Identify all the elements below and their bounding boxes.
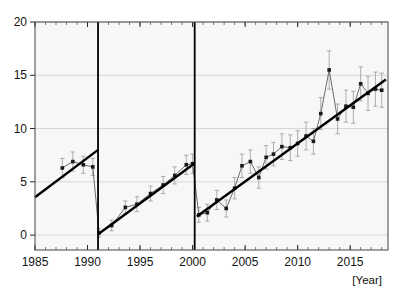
ytick-label-20: 20: [14, 15, 28, 29]
ytick-label-15: 15: [14, 68, 28, 82]
data-point: [280, 145, 284, 149]
chart-container: 198519901995200020052010201505101520[Yea…: [0, 0, 406, 300]
data-point: [82, 163, 86, 167]
data-point: [71, 160, 75, 164]
data-point: [257, 176, 261, 180]
data-point: [249, 160, 253, 164]
xtick-label-2000: 2000: [179, 255, 206, 269]
data-point: [205, 211, 209, 215]
data-point: [240, 164, 244, 168]
xtick-label-2015: 2015: [337, 255, 364, 269]
data-point: [124, 206, 128, 210]
data-point: [264, 156, 268, 160]
xtick-label-1985: 1985: [22, 255, 49, 269]
data-point: [380, 88, 384, 92]
line-chart: 198519901995200020052010201505101520[Yea…: [0, 0, 406, 300]
xtick-label-2010: 2010: [284, 255, 311, 269]
data-point: [61, 166, 65, 170]
xtick-label-1990: 1990: [74, 255, 101, 269]
ytick-label-10: 10: [14, 122, 28, 136]
data-point: [312, 140, 316, 144]
xtick-label-1995: 1995: [127, 255, 154, 269]
ytick-label-5: 5: [20, 175, 27, 189]
xtick-label-2005: 2005: [232, 255, 259, 269]
data-point: [336, 117, 340, 121]
data-point: [359, 82, 363, 86]
plot-background: [35, 22, 388, 250]
data-point: [184, 163, 188, 167]
ytick-label-0: 0: [20, 228, 27, 242]
data-point: [352, 105, 356, 109]
data-point: [224, 207, 228, 211]
data-point: [319, 112, 323, 116]
data-point: [327, 68, 331, 72]
data-point: [91, 165, 95, 169]
data-point: [272, 152, 276, 156]
xaxis-caption: [Year]: [352, 274, 382, 286]
